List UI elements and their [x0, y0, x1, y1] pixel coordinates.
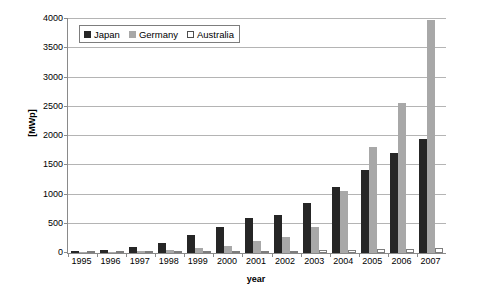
bar-australia-2004 [348, 250, 356, 253]
bar-germany-2005 [369, 147, 377, 253]
bar-japan-2001 [245, 218, 253, 253]
bar-japan-2007 [419, 139, 427, 253]
plot-area [67, 19, 446, 254]
x-tick-label: 1999 [183, 256, 212, 266]
bar-australia-2006 [406, 249, 414, 253]
bar-germany-2004 [340, 191, 348, 253]
y-tick-label: 0 [23, 248, 63, 257]
y-tick-label: 500 [23, 219, 63, 228]
bar-japan-2002 [274, 215, 282, 253]
bar-group [184, 19, 213, 253]
y-tick-label: 3500 [23, 43, 63, 52]
bar-groups [68, 19, 446, 253]
x-tick-label: 1995 [67, 256, 96, 266]
bar-japan-2000 [216, 227, 224, 253]
bar-japan-1999 [187, 235, 195, 253]
bar-australia-2007 [435, 248, 443, 253]
x-axis-title: year [67, 274, 445, 284]
bar-japan-2005 [361, 170, 369, 253]
y-tick-label: 3000 [23, 73, 63, 82]
bar-group [330, 19, 359, 253]
bar-group [242, 19, 271, 253]
legend-swatch-germany [129, 31, 136, 38]
x-tick-label: 2001 [241, 256, 270, 266]
y-axis-tick-labels: 05001000150020002500300035004000 [20, 0, 63, 296]
y-tick-label: 2500 [23, 102, 63, 111]
bar-group [213, 19, 242, 253]
x-tick-label: 2005 [358, 256, 387, 266]
bar-australia-1996 [116, 251, 124, 253]
bar-japan-2003 [303, 203, 311, 253]
y-tick-label: 1000 [23, 190, 63, 199]
legend-label: Germany [139, 29, 178, 40]
bar-chart: [MWp] 05001000150020002500300035004000 1… [0, 0, 479, 296]
bar-japan-2006 [390, 153, 398, 253]
bar-australia-2000 [232, 251, 240, 253]
legend-swatch-japan [84, 31, 91, 38]
bar-japan-1998 [158, 243, 166, 253]
bar-group [155, 19, 184, 253]
legend-label: Japan [94, 29, 120, 40]
bar-germany-2003 [311, 227, 319, 253]
chart-legend: JapanGermanyAustralia [79, 25, 240, 43]
bar-japan-1995 [71, 251, 79, 253]
x-tick-label: 2006 [387, 256, 416, 266]
bar-japan-1997 [129, 247, 137, 253]
x-axis-tick-labels: 1995199619971998199920002001200220032004… [67, 256, 445, 266]
bar-australia-2002 [290, 251, 298, 253]
bar-group [126, 19, 155, 253]
bar-australia-1997 [145, 251, 153, 253]
bar-germany-2006 [398, 103, 406, 253]
x-tick-label: 1996 [96, 256, 125, 266]
bar-germany-1995 [79, 252, 87, 253]
x-tick-label: 2002 [271, 256, 300, 266]
x-tick-label: 2000 [212, 256, 241, 266]
bar-australia-1999 [203, 251, 211, 253]
bar-australia-2005 [377, 249, 385, 253]
bar-group [359, 19, 388, 253]
bar-group [417, 19, 446, 253]
bar-group [272, 19, 301, 253]
x-tick-label: 2007 [416, 256, 445, 266]
x-tick-label: 2003 [300, 256, 329, 266]
bar-germany-2007 [427, 20, 435, 253]
legend-label: Australia [197, 29, 234, 40]
x-tick-label: 1998 [154, 256, 183, 266]
bar-germany-1996 [108, 252, 116, 253]
bar-germany-1999 [195, 248, 203, 253]
bar-germany-2002 [282, 237, 290, 253]
bar-germany-1997 [137, 251, 145, 253]
legend-swatch-australia [187, 31, 194, 38]
bar-japan-1996 [100, 250, 108, 254]
legend-item-japan: Japan [84, 29, 120, 40]
legend-item-australia: Australia [187, 29, 234, 40]
bar-australia-2001 [261, 251, 269, 253]
x-tick-label: 2004 [329, 256, 358, 266]
x-tick-label: 1997 [125, 256, 154, 266]
y-tick-label: 2000 [23, 131, 63, 140]
legend-item-germany: Germany [129, 29, 178, 40]
y-tick-label: 4000 [23, 14, 63, 23]
bar-group [68, 19, 97, 253]
bar-japan-2004 [332, 187, 340, 253]
bar-group [97, 19, 126, 253]
bar-group [301, 19, 330, 253]
bar-australia-1995 [87, 251, 95, 253]
bar-germany-2000 [224, 246, 232, 253]
bar-germany-2001 [253, 241, 261, 253]
bar-australia-2003 [319, 250, 327, 253]
bar-group [388, 19, 417, 253]
y-tick-label: 1500 [23, 160, 63, 169]
bar-australia-1998 [174, 251, 182, 253]
bar-germany-1998 [166, 250, 174, 254]
